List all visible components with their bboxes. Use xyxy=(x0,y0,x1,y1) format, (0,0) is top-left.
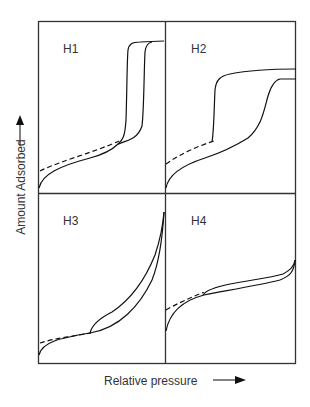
y-axis-label: Amount Adsorbed xyxy=(14,132,28,242)
x-axis-arrow-icon xyxy=(213,376,246,384)
panel-h1-curves xyxy=(39,41,164,188)
hysteresis-diagram xyxy=(0,0,310,407)
outer-frame xyxy=(39,22,296,364)
panel-label-h3: H3 xyxy=(63,214,78,228)
panel-h3-curves xyxy=(39,212,164,355)
x-axis-label: Relative pressure xyxy=(104,374,197,388)
panel-label-h1: H1 xyxy=(63,42,78,56)
panel-h4-curves xyxy=(166,260,295,331)
panel-h2-curves xyxy=(166,69,296,188)
panel-label-h2: H2 xyxy=(191,42,206,56)
panel-label-h4: H4 xyxy=(191,214,206,228)
